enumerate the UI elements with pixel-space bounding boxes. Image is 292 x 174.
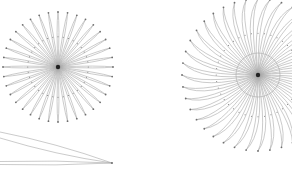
- edge-marker: [87, 61, 88, 62]
- petal-loop: [256, 0, 270, 75]
- edge-marker: [270, 114, 271, 115]
- petal-tip-node: [269, 149, 271, 151]
- petal-tip-node: [76, 14, 78, 16]
- petal-tip-node: [111, 76, 113, 78]
- edge-marker: [282, 41, 283, 42]
- petal-tip-node: [3, 57, 5, 59]
- petal-tip-node: [203, 128, 205, 130]
- petal-tip-node: [57, 121, 59, 123]
- edge-marker: [287, 104, 288, 105]
- petal-tip-node: [5, 47, 7, 49]
- edge-marker: [251, 116, 252, 117]
- petal-loop: [58, 57, 112, 67]
- petal-tip-node: [223, 142, 225, 144]
- petal-tip-node: [92, 24, 94, 26]
- petal-tip-node: [234, 146, 236, 148]
- starburst-figure: [0, 0, 292, 174]
- edge-marker: [29, 56, 30, 57]
- edge-marker: [220, 93, 221, 94]
- edge-marker: [245, 35, 246, 36]
- petal-tip-node: [212, 13, 214, 15]
- edge-marker: [63, 37, 64, 38]
- petal-tip-node: [109, 85, 111, 87]
- petal-loop: [246, 75, 260, 150]
- edge-marker: [218, 62, 219, 63]
- petal-tip-node: [234, 2, 236, 4]
- edge-marker: [228, 104, 229, 105]
- edge-marker: [224, 50, 225, 51]
- edge-marker: [77, 43, 78, 44]
- petal-loop: [4, 57, 58, 67]
- edge-marker: [38, 90, 39, 91]
- edge-marker: [81, 47, 82, 48]
- petal-tip-node: [99, 101, 101, 103]
- petal-tip-node: [105, 94, 107, 96]
- edge-marker: [34, 86, 35, 87]
- edge-marker: [34, 47, 35, 48]
- petal-tip-node: [105, 39, 107, 41]
- petal-tip-node: [112, 66, 114, 68]
- petal-tip-node: [85, 18, 87, 20]
- edge-marker: [31, 51, 32, 52]
- petal-tip-node: [85, 114, 87, 116]
- edge-marker: [216, 81, 217, 82]
- edge-marker: [258, 33, 259, 34]
- edge-marker: [291, 50, 292, 51]
- petal-tip-node: [182, 86, 184, 88]
- bottom-lens-diagram: [0, 132, 113, 165]
- edge-marker: [42, 93, 43, 94]
- edge-marker: [47, 38, 48, 39]
- petal-loop: [48, 13, 58, 67]
- petal-tip-node: [109, 47, 111, 49]
- petal-tip-node: [5, 85, 7, 87]
- right-starburst-diagram: [181, 0, 292, 152]
- petal-tip-node: [38, 14, 40, 16]
- edge-marker: [264, 116, 265, 117]
- edge-marker: [220, 56, 221, 57]
- edge-marker: [52, 96, 53, 97]
- edge-marker: [251, 33, 252, 34]
- edge-marker: [63, 96, 64, 97]
- petal-tip-node: [281, 2, 283, 4]
- petal-tip-node: [281, 146, 283, 148]
- lens-loop: [0, 161, 112, 165]
- petal-loop: [58, 13, 68, 67]
- edge-marker: [58, 36, 59, 37]
- petal-tip-node: [76, 118, 78, 120]
- petal-tip-node: [38, 118, 40, 120]
- edge-marker: [276, 112, 277, 113]
- edge-marker: [233, 108, 234, 109]
- petal-tip-node: [9, 39, 11, 41]
- edge-marker: [58, 97, 59, 98]
- petal-tip-node: [189, 109, 191, 111]
- lens-tip-node: [111, 162, 113, 164]
- petal-tip-node: [67, 12, 69, 14]
- edge-marker: [276, 37, 277, 38]
- petal-tip-node: [67, 120, 69, 122]
- petal-tip-node: [30, 114, 32, 116]
- petal-loop: [58, 67, 68, 121]
- edge-marker: [270, 35, 271, 36]
- edge-marker: [42, 40, 43, 41]
- edge-marker: [73, 93, 74, 94]
- edge-marker: [233, 41, 234, 42]
- petal-tip-node: [48, 120, 50, 122]
- petal-tip-node: [245, 149, 247, 151]
- petal-tip-node: [189, 40, 191, 42]
- petal-tip-node: [203, 20, 205, 22]
- edge-marker: [68, 38, 69, 39]
- petal-tip-node: [22, 24, 24, 26]
- edge-marker: [258, 116, 259, 117]
- edge-marker: [47, 95, 48, 96]
- petal-tip-node: [182, 62, 184, 64]
- petal-loop: [58, 67, 112, 77]
- edge-marker: [28, 61, 29, 62]
- petal-tip-node: [257, 150, 259, 152]
- edge-marker: [73, 40, 74, 41]
- edge-marker: [88, 67, 89, 68]
- left-starburst-diagram: [2, 11, 114, 123]
- petal-loop: [4, 67, 58, 77]
- edge-marker: [27, 67, 28, 68]
- petal-tip-node: [223, 6, 225, 8]
- edge-marker: [86, 56, 87, 57]
